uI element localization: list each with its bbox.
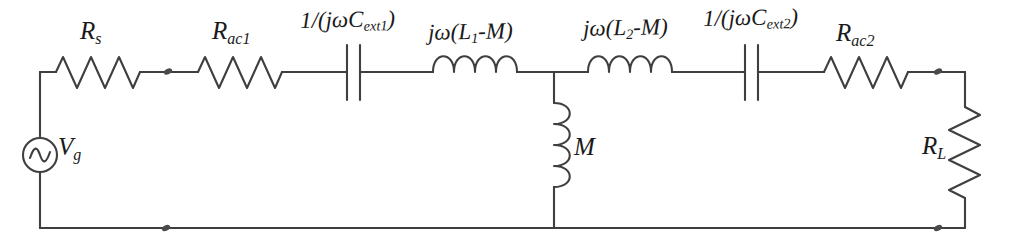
label-rac1: Rac1 [212, 18, 250, 43]
resistor-rac2 [824, 57, 908, 88]
label-cext1: 1/(jωCext1) [300, 7, 395, 32]
node-dot-rac2-right [933, 67, 943, 75]
inductor-l1m [433, 56, 517, 72]
circuit-diagram: Rs Rac1 1/(jωCext1) jω(L1-M) jω(L2-M) 1/… [0, 0, 1015, 250]
inductor-m [554, 103, 570, 187]
resistor-rl [949, 107, 980, 198]
ac-source-sine [30, 149, 50, 162]
label-vg: Vg [58, 134, 81, 159]
node-dot-bottom-left [161, 224, 171, 232]
node-markers [161, 67, 943, 232]
inductor-l2m [588, 56, 672, 72]
resistor-rs [56, 57, 140, 88]
label-m: M [574, 134, 595, 159]
label-l1m: jω(L1-M) [428, 19, 513, 44]
label-rs: Rs [80, 18, 102, 43]
node-dot-bottom-right [933, 224, 943, 232]
label-rl: RL [922, 133, 946, 158]
label-rac2: Rac2 [836, 20, 874, 45]
label-l2m: jω(L2-M) [583, 15, 668, 40]
label-cext2: 1/(jωCext2) [703, 5, 798, 30]
node-dot-rs-rac1 [163, 67, 173, 75]
resistor-rac1 [198, 57, 282, 88]
